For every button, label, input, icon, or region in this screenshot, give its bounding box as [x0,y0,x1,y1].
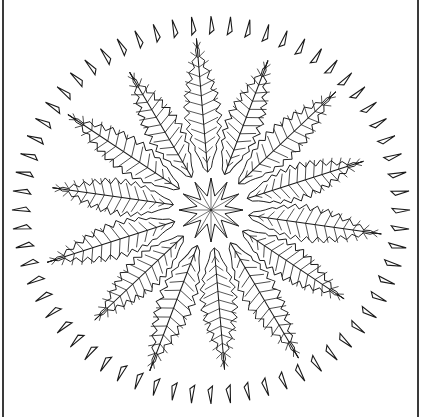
tick-shape [377,276,395,287]
tick-shape [189,385,195,403]
tick-shape [383,260,402,270]
fern-leaf [195,246,243,371]
tick-shape [15,241,34,249]
tick-shape [391,189,409,195]
tick-shape [337,333,353,349]
tick-shape [208,386,213,404]
tick-shape [262,24,272,43]
tick-shape [324,345,339,362]
tick-shape [171,19,179,38]
fern-leaf [232,215,354,314]
tick-shape [378,134,396,145]
tick-shape [279,30,290,48]
tick-shape [20,151,39,161]
coloring-page [0,0,422,417]
tick-shape [69,71,85,87]
tick-shape [210,16,215,34]
fern-leaf [178,37,227,174]
tick-shape [388,243,407,251]
fern-leaf [50,169,176,223]
tick-shape [384,152,403,162]
tick-shape [391,226,409,232]
tick-shape [243,382,251,401]
fern-leaf [113,63,208,187]
tick-shape [115,364,127,382]
tick-shape [226,385,232,403]
tick-shape [84,58,99,75]
tick-shape [132,371,143,389]
tick-shape [34,290,52,302]
tick-shape [392,209,410,214]
fern-leaf [82,222,197,333]
fern-leaf [41,204,180,281]
tick-shape [99,47,113,64]
tick-shape [16,169,35,177]
tick-shape [388,171,407,179]
tick-shape [309,356,323,373]
tick-shape [116,37,128,55]
tick-shape [277,372,288,390]
tick-shape [338,72,354,88]
tick-shape [13,224,31,230]
tick-shape [370,117,388,129]
tick-shape [133,30,144,48]
tick-shape [360,307,377,321]
tick-shape [55,319,72,334]
tick-shape [169,382,177,401]
tick-shape [152,23,162,42]
tick-shape [295,38,307,56]
tick-shape [12,207,30,212]
tick-shape [369,292,387,304]
tick-shape [68,332,84,348]
tick-shape [26,275,44,286]
tick-shape [13,188,31,194]
tick-shape [350,86,367,101]
tick-shape [310,48,324,65]
tick-shape [227,17,233,35]
tick-shape [82,344,97,361]
tick-shape [56,85,73,100]
fern-leaf [214,233,315,368]
tick-shape [45,100,62,114]
tick-shape [20,258,39,268]
center-star [179,178,243,242]
tick-shape [294,365,306,383]
tick-shape [361,101,378,115]
tick-shape [150,378,160,397]
tick-shape [325,59,340,76]
tick-shape [190,17,196,35]
tick-shape [44,305,61,319]
tick-shape [261,378,271,397]
fern-leaf [207,54,286,181]
tick-shape [98,355,112,372]
tick-shape [27,133,45,144]
tick-shape [35,116,53,128]
mandala-artwork [0,0,422,417]
tick-shape [245,19,253,38]
tick-shape [349,320,366,335]
